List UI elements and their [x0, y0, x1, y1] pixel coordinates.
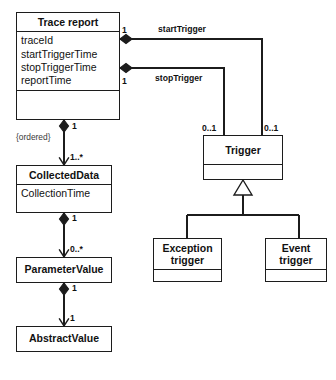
class-event-trigger-operations: [266, 269, 326, 283]
class-abstract-value[interactable]: AbstractValue: [16, 326, 112, 352]
class-parameter-value[interactable]: ParameterValue: [16, 257, 112, 283]
composition-diamond-collected-parameter: [60, 213, 69, 225]
attribute-traceid: traceId: [21, 34, 116, 47]
attribute-stoptriggertime: stopTriggerTime: [21, 61, 116, 74]
class-trace-report-name: Trace report: [17, 13, 119, 31]
uml-class-diagram: Trace report traceId startTriggerTime st…: [0, 0, 336, 380]
arrowhead-parameter-value: [60, 250, 69, 257]
multiplicity-trace-stop: 1: [122, 77, 127, 86]
class-parameter-value-name: ParameterValue: [17, 258, 111, 278]
class-event-trigger-name-line2: trigger: [279, 254, 312, 266]
multiplicity-parameter-value-target: 0..*: [70, 245, 83, 254]
arrowhead-abstract-value: [60, 319, 69, 326]
class-event-trigger[interactable]: Event trigger: [265, 238, 327, 282]
multiplicity-parameter-abstract-source: 1: [72, 284, 77, 293]
class-collected-data-attributes: CollectionTime: [17, 184, 111, 202]
class-trigger-name: Trigger: [204, 136, 282, 164]
multiplicity-collected-data-target: 1..*: [70, 153, 83, 162]
multiplicity-trace-start: 1: [122, 26, 127, 35]
class-trigger-operations: [204, 164, 282, 178]
label-start-trigger: startTrigger: [158, 25, 206, 34]
composition-diamond-trace-collected: [60, 120, 69, 132]
composition-diamond-start-trigger: [120, 35, 132, 44]
class-exception-trigger-name-line2: trigger: [171, 254, 204, 266]
arrowhead-collected-data: [60, 158, 69, 165]
constraint-ordered: {ordered}: [16, 133, 50, 141]
class-exception-trigger[interactable]: Exception trigger: [153, 238, 222, 282]
multiplicity-trigger-start-end: 0..1: [264, 124, 278, 133]
class-abstract-value-name: AbstractValue: [17, 327, 111, 347]
class-collected-data[interactable]: CollectedData CollectionTime: [16, 165, 112, 213]
class-trace-report-attributes: traceId startTriggerTime stopTriggerTime…: [17, 31, 119, 90]
class-exception-trigger-operations: [154, 269, 221, 283]
class-trace-report[interactable]: Trace report traceId startTriggerTime st…: [16, 12, 120, 120]
class-exception-trigger-name-line1: Exception: [162, 242, 212, 254]
class-trigger[interactable]: Trigger: [203, 135, 283, 180]
composition-diamond-stop-trigger: [120, 64, 132, 73]
attribute-collectiontime: CollectionTime: [21, 187, 108, 200]
class-collected-data-name: CollectedData: [17, 166, 111, 184]
composition-diamond-parameter-abstract: [60, 283, 69, 295]
generalization-triangle: [234, 180, 252, 195]
connector-start-trigger: [120, 39, 262, 135]
class-trace-report-operations: [17, 90, 119, 104]
multiplicity-collected-parameter-source: 1: [72, 214, 77, 223]
class-event-trigger-name-line1: Event: [282, 242, 311, 254]
multiplicity-trace-collected-source: 1: [72, 122, 77, 131]
multiplicity-trigger-stop-end: 0..1: [202, 124, 216, 133]
class-exception-trigger-name: Exception trigger: [154, 239, 221, 269]
multiplicity-abstract-value-target: 1: [70, 314, 75, 323]
attribute-reporttime: reportTime: [21, 74, 116, 87]
attribute-starttriggertime: startTriggerTime: [21, 48, 116, 61]
label-stop-trigger: stopTrigger: [155, 74, 202, 83]
class-event-trigger-name: Event trigger: [266, 239, 326, 269]
